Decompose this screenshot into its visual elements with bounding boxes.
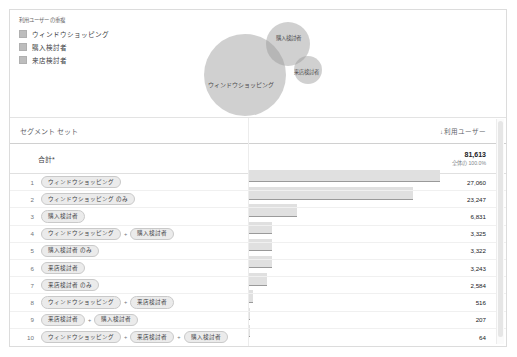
plus-separator-icon: +: [124, 299, 127, 305]
column-header-segment-set[interactable]: セグメント セット: [10, 126, 258, 136]
segment-chip-group: 購入検討者 のみ: [41, 245, 248, 257]
segment-chip[interactable]: 購入検討者: [94, 314, 138, 326]
row-index: 6: [10, 265, 41, 272]
segment-chip[interactable]: 購入検討者 のみ: [41, 245, 99, 257]
table-row[interactable]: 5購入検討者 のみ3,322: [10, 243, 506, 260]
row-user-count: 27,060: [248, 179, 506, 186]
segment-chip[interactable]: 購入検討者: [130, 228, 174, 240]
venn-label-purchase-intent: 購入検討者: [276, 34, 301, 42]
segment-chip[interactable]: 来店検討者 のみ: [41, 279, 99, 291]
row-index: 9: [10, 316, 41, 323]
row-user-count: 516: [248, 299, 506, 306]
user-overlap-report: 利用ユーザーの重複 ウィンドウショッピング 購入検討者 来店検討者 ウィンドウシ…: [9, 9, 507, 347]
row-user-count: 64: [248, 334, 506, 341]
legend-item-purchase-intent[interactable]: 購入検討者: [19, 40, 109, 53]
total-user-count: 81,613: [276, 150, 486, 159]
row-index: 8: [10, 299, 41, 306]
segment-chip[interactable]: 来店検討者: [41, 262, 85, 274]
legend-title: 利用ユーザーの重複: [19, 16, 109, 24]
row-user-count: 6,831: [248, 213, 506, 220]
row-user-count: 23,247: [248, 196, 506, 203]
segment-chip[interactable]: ウィンドウショッピング: [41, 228, 121, 240]
row-index: 10: [10, 334, 41, 341]
legend-swatch-icon: [19, 56, 27, 64]
legend-item-label: 来店検討者: [32, 55, 67, 65]
row-index: 1: [10, 179, 41, 186]
segment-chip-group: ウィンドウショッピング のみ: [41, 193, 248, 205]
segment-chip-group: ウィンドウショッピング+購入検討者: [41, 228, 248, 240]
table-row[interactable]: 4ウィンドウショッピング+購入検討者3,325: [10, 226, 506, 243]
legend-swatch-icon: [19, 30, 27, 38]
table-row[interactable]: 2ウィンドウショッピング のみ23,247: [10, 191, 506, 208]
segment-chip-group: 来店検討者+購入検討者: [41, 314, 248, 326]
table-row[interactable]: 3購入検討者6,831: [10, 208, 506, 225]
table-row[interactable]: 1ウィンドウショッピング27,060: [10, 174, 506, 191]
segment-chip[interactable]: 来店検討者: [130, 331, 174, 343]
segment-chip[interactable]: 来店検討者: [130, 296, 174, 308]
venn-label-store-visit-intent: 来店検討者: [294, 68, 319, 75]
table-row[interactable]: 10ウィンドウショッピング+来店検討者+購入検討者64: [10, 329, 506, 346]
table-row[interactable]: 6来店検討者3,243: [10, 260, 506, 277]
table-total-row: 合計* 81,613 全体の 100.0%: [10, 144, 506, 174]
table-row[interactable]: 8ウィンドウショッピング+来店検討者516: [10, 294, 506, 311]
plus-separator-icon: +: [88, 317, 91, 323]
legend-swatch-icon: [19, 43, 27, 51]
row-user-count: 3,243: [248, 265, 506, 272]
segment-chip-group: ウィンドウショッピング: [41, 176, 248, 188]
venn-label-window-shopping: ウィンドウショッピング: [208, 80, 274, 89]
table-header-row: セグメント セット ↓利用ユーザー: [10, 118, 506, 144]
row-index: 7: [10, 282, 41, 289]
row-user-count: 3,322: [248, 247, 506, 254]
segment-chip[interactable]: ウィンドウショッピング のみ: [41, 193, 135, 205]
segment-chip[interactable]: 購入検討者: [184, 331, 228, 343]
legend: 利用ユーザーの重複 ウィンドウショッピング 購入検討者 来店検討者: [19, 16, 109, 66]
row-user-count: 207: [248, 316, 506, 323]
segment-chip[interactable]: ウィンドウショッピング: [41, 331, 121, 343]
segment-chip-group: ウィンドウショッピング+来店検討者+購入検討者: [41, 331, 248, 343]
legend-item-window-shopping[interactable]: ウィンドウショッピング: [19, 27, 109, 40]
row-index: 5: [10, 247, 41, 254]
legend-item-store-visit-intent[interactable]: 来店検討者: [19, 53, 109, 66]
plus-separator-icon: +: [177, 334, 180, 340]
plus-separator-icon: +: [124, 334, 127, 340]
column-header-users[interactable]: ↓利用ユーザー: [258, 126, 506, 136]
row-index: 4: [10, 230, 41, 237]
table-body: 1ウィンドウショッピング27,0602ウィンドウショッピング のみ23,2473…: [10, 174, 506, 346]
row-index: 3: [10, 213, 41, 220]
venn-diagram: ウィンドウショッピング 購入検討者 来店検討者: [200, 18, 380, 116]
row-user-count: 3,325: [248, 230, 506, 237]
segment-chip-group: 来店検討者 のみ: [41, 279, 248, 291]
plus-separator-icon: +: [124, 231, 127, 237]
segment-chip-group: ウィンドウショッピング+来店検討者: [41, 296, 248, 308]
table-row[interactable]: 7来店検討者 のみ2,584: [10, 277, 506, 294]
total-percent: 全体の 100.0%: [276, 159, 486, 167]
column-header-users-label: 利用ユーザー: [444, 128, 486, 135]
legend-item-label: 購入検討者: [32, 42, 67, 52]
segment-chip[interactable]: 購入検討者: [41, 210, 85, 222]
segment-chip[interactable]: ウィンドウショッピング: [41, 176, 121, 188]
venn-diagram-panel: 利用ユーザーの重複 ウィンドウショッピング 購入検討者 来店検討者 ウィンドウシ…: [10, 10, 506, 118]
legend-item-label: ウィンドウショッピング: [32, 29, 109, 39]
segment-chip[interactable]: 来店検討者: [41, 314, 85, 326]
row-index: 2: [10, 196, 41, 203]
segment-chip-group: 購入検討者: [41, 210, 248, 222]
table-row[interactable]: 9来店検討者+購入検討者207: [10, 312, 506, 329]
row-user-count: 2,584: [248, 282, 506, 289]
segment-chip-group: 来店検討者: [41, 262, 248, 274]
segment-chip[interactable]: ウィンドウショッピング: [41, 296, 121, 308]
segment-set-table: セグメント セット ↓利用ユーザー 合計* 81,613 全体の 100.0% …: [10, 118, 506, 346]
sort-descending-icon: ↓: [440, 129, 443, 135]
total-values: 81,613 全体の 100.0%: [276, 150, 506, 167]
total-label: 合計*: [10, 154, 276, 164]
